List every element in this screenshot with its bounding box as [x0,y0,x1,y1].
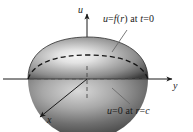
u-axis-label: u [78,4,83,15]
initial-condition-at: at [130,13,137,24]
initial-condition-zero: 0 [149,13,154,24]
boundary-condition-at: at [126,105,133,116]
x-axis-label: x [47,114,51,125]
boundary-condition-zero: 0 [118,105,123,116]
initial-condition-label: u=f(r) at t=0 [103,13,154,24]
initial-condition-close-paren: ) [124,13,127,24]
boundary-condition-label: u=0 at r=c [107,105,150,116]
y-axis-label: y [173,80,177,91]
dome-surface [28,37,148,79]
boundary-condition-c: c [145,105,150,116]
membrane-dome-figure: u=f(r) at t=0 u=0 at r=c u y x [0,0,193,132]
figure-canvas [0,0,193,132]
